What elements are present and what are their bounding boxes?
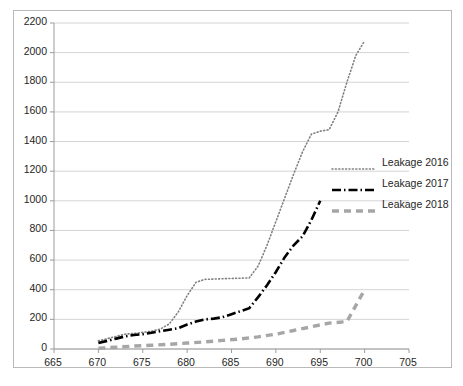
x-axis-label-700: 700 <box>344 356 384 368</box>
y-axis-label-600: 600 <box>15 252 47 264</box>
y-axis-label-1000: 1000 <box>15 193 47 205</box>
x-axis-label-665: 665 <box>33 356 73 368</box>
y-axis-label-200: 200 <box>15 311 47 323</box>
y-axis-label-1600: 1600 <box>15 104 47 116</box>
legend-item-1: Leakage 2016 <box>382 156 449 168</box>
y-axis-label-2000: 2000 <box>15 45 47 57</box>
series-line-1 <box>98 41 364 341</box>
legend-item-3: Leakage 2018 <box>382 198 449 210</box>
x-axis-label-685: 685 <box>211 356 251 368</box>
y-axis-label-1800: 1800 <box>15 74 47 86</box>
y-axis-label-0: 0 <box>15 341 47 353</box>
x-axis-label-705: 705 <box>388 356 428 368</box>
y-axis-label-1200: 1200 <box>15 163 47 175</box>
x-axis-label-695: 695 <box>299 356 339 368</box>
y-axis-label-800: 800 <box>15 222 47 234</box>
x-axis-label-680: 680 <box>166 356 206 368</box>
x-axis-label-675: 675 <box>122 356 162 368</box>
y-axis-label-400: 400 <box>15 282 47 294</box>
x-axis-label-690: 690 <box>255 356 295 368</box>
y-axis-label-2200: 2200 <box>15 15 47 27</box>
y-axis-label-1400: 1400 <box>15 134 47 146</box>
x-axis-label-670: 670 <box>77 356 117 368</box>
series-line-2 <box>98 201 320 343</box>
chart-container: 2200200018001600140012001000800600400200… <box>0 0 463 386</box>
legend-item-2: Leakage 2017 <box>382 177 449 189</box>
